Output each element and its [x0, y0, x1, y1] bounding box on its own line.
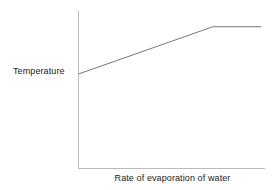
plot-area: [0, 0, 277, 190]
chart-figure: Temperature Rate of evaporation of water: [0, 0, 277, 190]
y-axis-label: Temperature: [13, 66, 65, 77]
data-line-temperature: [79, 27, 262, 74]
x-axis-label: Rate of evaporation of water: [0, 173, 277, 184]
